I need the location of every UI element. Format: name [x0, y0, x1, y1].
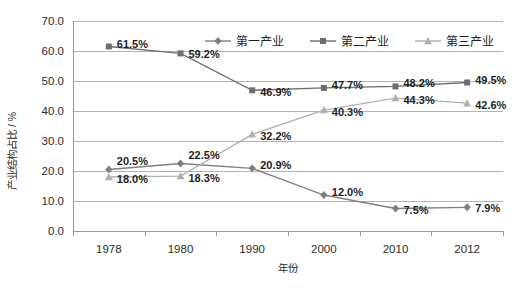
- data-label: 47.7%: [332, 79, 363, 91]
- data-label: 44.3%: [404, 94, 435, 106]
- legend: 第一产业第二产业第三产业: [205, 35, 494, 49]
- data-point-diamond: [105, 166, 112, 174]
- legend-marker-square: [320, 38, 326, 44]
- data-label: 20.9%: [260, 159, 291, 171]
- series-lines-group: [109, 47, 467, 209]
- data-point-square: [464, 80, 470, 86]
- data-label: 18.3%: [189, 172, 220, 184]
- y-tick-label: 30.0: [42, 135, 64, 147]
- x-tick-label: 1990: [239, 243, 265, 255]
- data-label: 7.5%: [404, 204, 429, 216]
- data-label: 49.5%: [475, 74, 506, 86]
- y-axis-title: 产业结构占比 / %: [6, 112, 18, 190]
- legend-label[interactable]: 第一产业: [236, 35, 284, 49]
- data-point-diamond: [464, 203, 471, 211]
- line-chart: 70.060.050.040.030.020.010.00.0 19781980…: [0, 0, 521, 295]
- data-label: 61.5%: [117, 38, 148, 50]
- x-axis-title: 年份: [278, 262, 299, 274]
- data-point-square: [249, 87, 255, 93]
- data-label: 46.9%: [260, 86, 291, 98]
- y-tick-label: 70.0: [42, 15, 64, 27]
- x-tick-label: 2000: [311, 243, 337, 255]
- y-tick-label: 20.0: [42, 165, 64, 177]
- legend-label[interactable]: 第三产业: [446, 35, 494, 49]
- data-label: 48.2%: [404, 77, 435, 89]
- data-point-labels-group: 20.5%22.5%20.9%12.0%7.5%7.9%61.5%59.2%46…: [117, 38, 507, 216]
- x-tick-label: 1978: [96, 243, 122, 255]
- chart-plot-area: 70.060.050.040.030.020.010.00.0 19781980…: [0, 0, 521, 295]
- data-label: 40.3%: [332, 106, 363, 118]
- data-label: 7.9%: [475, 202, 500, 214]
- x-tick-labels-group: 197819801990200020102012: [96, 243, 480, 255]
- x-tick-label: 2012: [454, 243, 480, 255]
- data-point-square: [321, 85, 327, 91]
- y-tick-label: 60.0: [42, 45, 64, 57]
- legend-marker-diamond: [214, 37, 221, 45]
- x-tick-label: 2010: [383, 243, 409, 255]
- y-tick-label: 50.0: [42, 75, 64, 87]
- data-point-square: [106, 44, 112, 50]
- series-markers-group: [105, 44, 471, 213]
- data-label: 22.5%: [189, 149, 220, 161]
- data-point-diamond: [320, 191, 327, 199]
- data-point-diamond: [177, 160, 184, 168]
- y-tick-label: 40.0: [42, 105, 64, 117]
- data-label: 32.2%: [260, 130, 291, 142]
- y-tick-labels-group: 70.060.050.040.030.020.010.00.0: [42, 15, 64, 237]
- data-point-square: [393, 83, 399, 89]
- y-tick-label: 10.0: [42, 195, 64, 207]
- data-label: 42.6%: [475, 99, 506, 111]
- x-tick-label: 1980: [168, 243, 194, 255]
- data-point-square: [178, 50, 184, 56]
- legend-label[interactable]: 第二产业: [341, 35, 389, 49]
- y-tick-label: 0.0: [48, 225, 64, 237]
- data-label: 18.0%: [117, 173, 148, 185]
- axes-group: [73, 21, 503, 232]
- data-label: 12.0%: [332, 186, 363, 198]
- data-label: 59.2%: [189, 48, 220, 60]
- data-label: 20.5%: [117, 155, 148, 167]
- data-point-diamond: [392, 205, 399, 213]
